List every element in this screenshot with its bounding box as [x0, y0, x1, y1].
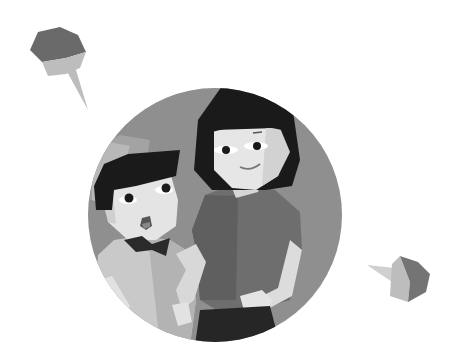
speech-bubble-top-left — [30, 27, 88, 110]
speech-bubble-bottom-right — [367, 256, 430, 302]
child-eye-right — [162, 184, 171, 193]
mother-eye-right — [253, 142, 261, 150]
mother-pants — [195, 306, 280, 345]
illustration — [0, 0, 463, 363]
child-eye-left — [125, 194, 134, 203]
mother-eyebrow — [253, 132, 262, 133]
speech-bubble-tail — [367, 265, 395, 282]
mother-eye-left — [222, 146, 230, 154]
